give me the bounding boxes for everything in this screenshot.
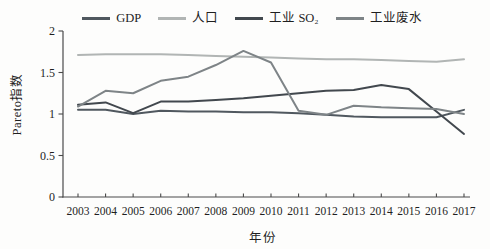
- x-tick-label: 2016: [425, 205, 448, 217]
- x-tick-label: 2009: [232, 205, 255, 217]
- y-tick-label: 0: [49, 190, 55, 204]
- x-tick-label: 2004: [94, 205, 117, 217]
- series-line-人口: [78, 54, 464, 61]
- x-tick-label: 2007: [177, 205, 200, 217]
- x-tick-label: 2015: [397, 205, 420, 217]
- y-tick-label: 1.5: [40, 66, 55, 80]
- x-axis-title: 年份: [63, 227, 463, 246]
- x-tick-label: 2017: [453, 205, 476, 217]
- x-tick-label: 2012: [315, 205, 338, 217]
- y-tick-label: 0.5: [40, 149, 55, 163]
- y-tick-label: 1: [49, 107, 55, 121]
- pareto-index-chart: GDP 人口 工业 SO₂ 工业废水 Pareto指数 00.511.52200…: [0, 0, 490, 249]
- y-tick-label: 2: [49, 24, 55, 38]
- x-tick-label: 2008: [204, 205, 227, 217]
- x-tick-label: 2005: [122, 205, 145, 217]
- x-tick-label: 2003: [67, 205, 90, 217]
- chart-canvas: 00.511.522003200420052006200720082009201…: [0, 0, 490, 249]
- x-tick-label: 2011: [287, 205, 310, 217]
- x-tick-label: 2006: [149, 205, 172, 217]
- x-tick-label: 2014: [370, 205, 393, 217]
- x-tick-label: 2013: [342, 205, 365, 217]
- x-tick-label: 2010: [260, 205, 283, 217]
